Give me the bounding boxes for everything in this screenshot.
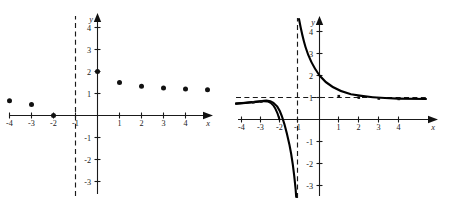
curve-marker <box>358 96 361 99</box>
data-point <box>139 84 144 89</box>
y-tick-label: -2 <box>84 156 91 165</box>
math-figure: -4 -3 -2 -1 1 2 3 4 1 2 3 4 -1 -2 -3 x y <box>0 0 453 203</box>
y-axis-label: y <box>310 18 315 27</box>
x-axis-label: x <box>205 119 210 128</box>
y-tick-label: 1 <box>87 90 91 99</box>
x-tick-label: 3 <box>161 119 165 128</box>
data-point <box>51 113 56 118</box>
x-tick-label: 4 <box>183 119 187 128</box>
y-axis <box>94 13 101 194</box>
scatter-plot-panel: -4 -3 -2 -1 1 2 3 4 1 2 3 4 -1 -2 -3 x y <box>0 0 230 203</box>
x-tick-label: -3 <box>257 123 264 132</box>
data-point <box>95 69 100 74</box>
data-point <box>29 102 34 107</box>
scatter-plot-svg: -4 -3 -2 -1 1 2 3 4 1 2 3 4 -1 -2 -3 x y <box>0 0 230 203</box>
y-tick-label: -3 <box>306 182 313 191</box>
x-tick-label: 2 <box>139 119 143 128</box>
y-tick-label: -3 <box>84 178 91 187</box>
data-points <box>7 69 210 118</box>
x-tick-label: 1 <box>336 123 340 132</box>
x-tick-label: 1 <box>117 119 121 128</box>
y-tick-label: 2 <box>309 72 313 81</box>
y-axis-label: y <box>88 15 93 24</box>
y-tick-label: 4 <box>309 28 313 37</box>
x-tick-label: -4 <box>6 119 13 128</box>
curve-marker <box>338 95 341 98</box>
curve-marker <box>378 97 381 100</box>
data-point <box>205 87 210 92</box>
data-point <box>7 98 12 103</box>
x-tick-label: -3 <box>28 119 35 128</box>
hyperbola-plot-svg: -4 -3 -2 -1 1 2 3 4 1 2 3 4 -1 -2 -3 x y <box>230 0 453 203</box>
curve-marker <box>260 100 263 103</box>
y-axis <box>316 16 323 196</box>
y-tick-label: -2 <box>306 160 313 169</box>
hyperbola-left-branch-curve <box>236 100 296 197</box>
curve-marker <box>398 98 401 101</box>
x-tick-label: 2 <box>356 123 360 132</box>
data-point <box>183 87 188 92</box>
x-axis-label: x <box>430 123 435 132</box>
data-point <box>117 80 122 85</box>
curve-marker <box>252 101 255 104</box>
hyperbola-plot-panel: -4 -3 -2 -1 1 2 3 4 1 2 3 4 -1 -2 -3 x y <box>230 0 453 203</box>
x-tick-label: 4 <box>396 123 400 132</box>
y-tick-label: 1 <box>309 94 313 103</box>
y-tick-label: 2 <box>87 68 91 77</box>
x-tick-label: -1 <box>72 119 79 128</box>
x-tick-label: -2 <box>276 123 283 132</box>
x-tick-label: -2 <box>50 119 57 128</box>
y-tick-label: 3 <box>87 46 91 55</box>
x-tick-label: -1 <box>294 123 301 132</box>
y-tick-label: 4 <box>87 24 91 33</box>
y-tick-label: -1 <box>84 134 91 143</box>
x-axis <box>9 112 213 119</box>
data-point <box>161 86 166 91</box>
x-tick-label: -4 <box>238 123 245 132</box>
x-tick-label: 3 <box>376 123 380 132</box>
y-tick-label: -1 <box>306 138 313 147</box>
